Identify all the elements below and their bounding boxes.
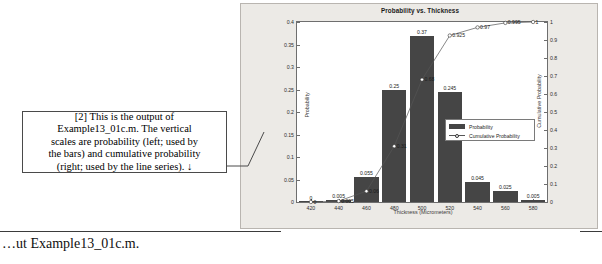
chart-legend: Probability Cumulative Probability <box>445 119 535 141</box>
y-tick-label-right: 0.4 <box>550 127 557 133</box>
cumulative-marker <box>309 200 312 203</box>
cumulative-value-label: 0.06 <box>369 188 379 194</box>
legend-entry-cumulative: Cumulative Probability <box>449 131 531 140</box>
annotation-callout-box: [2] This is the output of Example13_01c.… <box>22 111 227 173</box>
cumulative-value-label: 0 <box>313 199 316 205</box>
matlab-figure-window: Probability vs. Thickness Probability Cu… <box>240 3 598 229</box>
x-tick-label: 480 <box>390 205 399 211</box>
cumulative-line-path <box>311 22 533 202</box>
y-tick-label-right: 0 <box>550 199 553 205</box>
cumulative-value-label: 0.31 <box>397 143 407 149</box>
page-divider-right <box>580 231 602 232</box>
x-tick-label: 420 <box>307 205 316 211</box>
y-tick-label-right: 0.9 <box>550 37 557 43</box>
x-tick-label: 460 <box>362 205 371 211</box>
legend-line-swatch <box>449 133 465 138</box>
line-series-cumulative-probability <box>297 22 547 202</box>
chart-plot-area: Probability Cumulative Probability Thick… <box>296 21 548 203</box>
chart-title: Probability vs. Thickness <box>241 7 599 14</box>
y-tick-label-left: 0.35 <box>284 42 294 48</box>
cumulative-value-label: 0.68 <box>425 76 435 82</box>
callout-pointer-arrow <box>226 130 266 168</box>
y-tick-mark-right <box>544 202 547 203</box>
cumulative-marker <box>420 78 423 81</box>
cumulative-value-label: 0.005 <box>341 198 354 204</box>
annotation-callout-text: [2] This is the output of Example13_01c.… <box>44 111 204 173</box>
page-divider-left <box>0 231 281 232</box>
legend-line-label: Cumulative Probability <box>469 133 520 139</box>
y-tick-label-right: 1 <box>550 19 553 25</box>
y-tick-label-left: 0.25 <box>284 87 294 93</box>
x-tick-label: 560 <box>501 205 510 211</box>
cumulative-marker <box>365 190 368 193</box>
y-tick-label-right: 0.6 <box>550 91 557 97</box>
cumulative-value-label: 1 <box>536 19 539 25</box>
cumulative-marker <box>504 21 507 24</box>
cumulative-value-label: 0.995 <box>508 19 521 25</box>
x-tick-label: 440 <box>334 205 343 211</box>
cumulative-value-label: 0.925 <box>452 32 465 38</box>
x-tick-label: 540 <box>473 205 482 211</box>
y-tick-label-left: 0.05 <box>284 177 294 183</box>
y-tick-label-left: 0.2 <box>287 109 294 115</box>
legend-bar-swatch <box>449 124 465 129</box>
y-tick-label-left: 0.3 <box>287 64 294 70</box>
y-tick-label-right: 0.3 <box>550 145 557 151</box>
x-tick-label: 520 <box>445 205 454 211</box>
y-tick-label-right: 0.2 <box>550 163 557 169</box>
clipped-caption-text: …ut Example13_01c.m. <box>2 236 282 262</box>
legend-entry-probability: Probability <box>449 122 531 131</box>
cumulative-value-label: 0.97 <box>480 24 490 30</box>
cumulative-marker <box>531 20 534 23</box>
legend-bar-label: Probability <box>469 124 493 130</box>
y-tick-label-left: 0.1 <box>287 154 294 160</box>
y-tick-label-left: 0 <box>291 199 294 205</box>
y-tick-label-right: 0.5 <box>550 109 557 115</box>
y-tick-label-left: 0.15 <box>284 132 294 138</box>
y-tick-label-right: 0.1 <box>550 181 557 187</box>
y-tick-label-left: 0.4 <box>287 19 294 25</box>
y-tick-mark-left <box>297 202 300 203</box>
x-tick-label: 500 <box>418 205 427 211</box>
y-tick-label-right: 0.7 <box>550 73 557 79</box>
x-tick-label: 580 <box>529 205 538 211</box>
cumulative-marker <box>393 145 396 148</box>
cumulative-marker <box>448 34 451 37</box>
y-tick-label-right: 0.8 <box>550 55 557 61</box>
cumulative-marker <box>476 26 479 29</box>
cumulative-marker <box>337 199 340 202</box>
